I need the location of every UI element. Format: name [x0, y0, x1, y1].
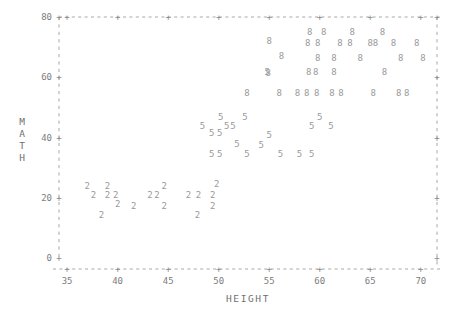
y-tick-label: 0 — [47, 253, 52, 263]
data-point-5: 5 — [258, 140, 263, 150]
data-point-8: 8 — [315, 38, 320, 48]
chart-canvas: ++0++20++40++60++80++35++40++45++50++55+… — [0, 0, 463, 312]
data-point-8: 8 — [420, 53, 425, 63]
y-axis-title-char: H — [19, 152, 25, 163]
y-axis-title-char: T — [19, 140, 25, 151]
data-point-8: 8 — [398, 53, 403, 63]
data-point-8: 8 — [313, 67, 318, 77]
data-point-8: 8 — [338, 88, 343, 98]
data-point-8: 8 — [244, 88, 249, 98]
data-point-5: 5 — [244, 149, 249, 159]
data-point-2: 2 — [131, 201, 136, 211]
data-point-5: 5 — [328, 121, 333, 131]
y-tick-mark-right: + — [434, 12, 440, 22]
data-point-5: 5 — [297, 149, 302, 159]
data-point-2: 2 — [105, 190, 110, 200]
data-point-8: 8 — [396, 88, 401, 98]
data-point-8: 8 — [304, 88, 309, 98]
data-point-8: 8 — [307, 27, 312, 37]
data-point-2: 2 — [210, 190, 215, 200]
y-tick-label: 80 — [41, 12, 52, 22]
data-point-5: 5 — [267, 130, 272, 140]
data-point-2: 2 — [147, 190, 152, 200]
data-point-8: 8 — [329, 88, 334, 98]
data-point-8: 8 — [391, 38, 396, 48]
x-tick-mark-top: + — [115, 12, 121, 22]
data-point-8: 8 — [349, 27, 354, 37]
data-point-8: 8 — [337, 38, 342, 48]
data-point-8: 8 — [380, 27, 385, 37]
data-point-2: 2 — [154, 190, 159, 200]
data-point-8: 8 — [315, 53, 320, 63]
x-tick-mark-top: + — [418, 12, 424, 22]
data-point-8: 8 — [331, 67, 336, 77]
x-tick-mark-top: + — [267, 12, 273, 22]
x-tick-mark: + — [64, 264, 70, 274]
data-point-8: 8 — [267, 36, 272, 46]
data-point-5: 5 — [242, 112, 247, 122]
y-tick-mark-right: + — [434, 133, 440, 143]
y-axis-title-char: A — [19, 128, 25, 139]
x-tick-label: 55 — [264, 276, 275, 286]
x-tick-mark-top: + — [216, 12, 222, 22]
data-point-5: 5 — [224, 121, 229, 131]
y-tick-label: 40 — [41, 133, 52, 143]
data-point-8: 8 — [321, 27, 326, 37]
x-tick-mark: + — [317, 264, 323, 274]
data-point-2: 2 — [214, 179, 219, 189]
x-tick-label: 35 — [62, 276, 73, 286]
data-point-2: 2 — [161, 181, 166, 191]
data-point-5: 5 — [217, 128, 222, 138]
y-tick-label: 60 — [41, 72, 52, 82]
data-point-5: 5 — [317, 112, 322, 122]
data-point-8: 8 — [373, 38, 378, 48]
data-point-8: 8 — [357, 53, 362, 63]
x-tick-mark: + — [418, 264, 424, 274]
scatter-plot-figure: ++0++20++40++60++80++35++40++45++50++55+… — [0, 0, 463, 312]
data-point-8: 8 — [382, 67, 387, 77]
x-tick-mark-top: + — [368, 12, 374, 22]
y-axis-title-char: M — [19, 116, 25, 127]
data-point-8: 8 — [414, 38, 419, 48]
data-point-2: 2 — [195, 210, 200, 220]
data-point-2: 2 — [196, 190, 201, 200]
data-point-5: 5 — [309, 149, 314, 159]
x-tick-mark: + — [115, 264, 121, 274]
data-point-5: 5 — [209, 128, 214, 138]
data-point-2: 2 — [99, 210, 104, 220]
x-axis-title: HEIGHT — [226, 293, 270, 304]
data-point-8: 8 — [314, 88, 319, 98]
y-tick-label: 20 — [41, 193, 52, 203]
data-point-5: 5 — [278, 149, 283, 159]
data-point-5: 5 — [218, 112, 223, 122]
data-point-8: 8 — [347, 38, 352, 48]
y-tick-mark-right: + — [434, 72, 440, 82]
x-tick-mark: + — [368, 264, 374, 274]
y-tick-mark: + — [56, 193, 62, 203]
data-point-5: 5 — [217, 149, 222, 159]
y-tick-mark: + — [56, 253, 62, 263]
y-tick-mark: + — [56, 133, 62, 143]
y-tick-mark-right: + — [434, 193, 440, 203]
data-point-2: 2 — [85, 181, 90, 191]
data-point-8: 8 — [266, 68, 271, 78]
data-point-5: 5 — [234, 139, 239, 149]
x-tick-mark: + — [267, 264, 273, 274]
x-tick-label: 45 — [163, 276, 174, 286]
data-point-2: 2 — [115, 199, 120, 209]
x-tick-mark: + — [165, 264, 171, 274]
x-tick-mark-top: + — [165, 12, 171, 22]
data-point-2: 2 — [186, 190, 191, 200]
x-tick-label: 65 — [365, 276, 376, 286]
x-tick-label: 40 — [112, 276, 123, 286]
data-point-8: 8 — [295, 88, 300, 98]
x-tick-label: 60 — [314, 276, 325, 286]
data-point-8: 8 — [279, 51, 284, 61]
x-tick-mark-top: + — [64, 12, 70, 22]
data-point-8: 8 — [404, 88, 409, 98]
data-point-8: 8 — [305, 38, 310, 48]
y-tick-mark-right: + — [434, 253, 440, 263]
data-point-8: 8 — [306, 67, 311, 77]
data-point-5: 5 — [309, 121, 314, 131]
data-point-2: 2 — [161, 201, 166, 211]
